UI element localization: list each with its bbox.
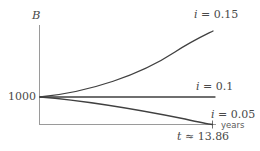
curve-i-0-05 [40,97,213,125]
y-axis-tick-label-1000: 1000 [8,91,36,102]
interest-balance-figure: B 1000 i = 0.15 i = 0.1 i = 0.05 years t… [0,0,260,151]
curve-label-i-0-15: i = 0.15 [194,9,238,20]
curve-i-0-15 [40,31,213,97]
zero-crossing-annotation: t ≈ 13.86 [177,131,229,142]
y-axis-label: B [32,10,40,22]
x-axis-unit-label: years [221,121,244,130]
curve-label-i-0-05: i = 0.05 [211,109,255,120]
curve-label-i-0-1: i = 0.1 [196,81,233,92]
